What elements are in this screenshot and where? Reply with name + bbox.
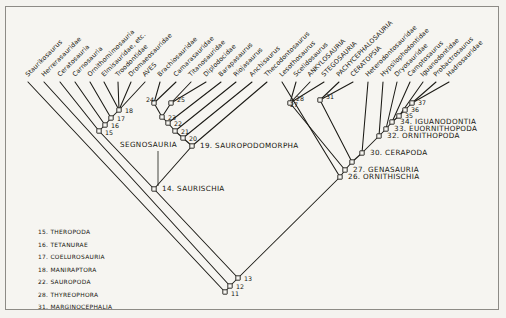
clade-label-saurischia: 14. SAURISCHIA xyxy=(162,184,225,193)
node-marker-22 xyxy=(166,121,170,125)
clade-label-sauropodomorpha: 19. SAUROPODOMORPHA xyxy=(200,141,299,150)
cladogram-figure: StaurikosaurusHerrerasauridaeCeratosauri… xyxy=(0,0,506,318)
segnosauria-label: SEGNOSAURIA xyxy=(120,140,177,149)
clade-label-cerapoda: 30. CERAPODA xyxy=(370,148,427,157)
clade-label-genasauria: 27. GENASAURIA xyxy=(353,165,419,174)
node-marker-16 xyxy=(103,123,107,127)
node-number-15: 15 xyxy=(105,129,113,136)
node-marker-37 xyxy=(410,101,414,105)
node-number-12: 12 xyxy=(236,283,244,290)
node-markers-group xyxy=(97,98,414,294)
node-number-21: 21 xyxy=(181,128,189,135)
node-marker-14 xyxy=(152,187,156,191)
legend-item-5: 22. SAUROPODA xyxy=(38,279,91,285)
node-number-37: 37 xyxy=(418,99,426,106)
legend-item-2: 16. TETANURAE xyxy=(38,242,88,248)
node-number-20: 20 xyxy=(189,135,197,142)
node-marker-31 xyxy=(318,98,322,102)
node-marker-18 xyxy=(117,108,121,112)
legend-item-6: 28. THYREOPHORA xyxy=(38,292,98,298)
legend-group: 15. THEROPODA16. TETANURAE17. COELUROSAU… xyxy=(38,229,112,310)
node-number-18: 18 xyxy=(125,107,133,114)
node-marker-23 xyxy=(160,115,164,119)
node-marker-17 xyxy=(109,116,113,120)
node-marker-19 xyxy=(190,144,194,148)
node-marker-11 xyxy=(223,290,227,294)
named-clade-labels: 19. SAUROPODOMORPHA14. SAURISCHIA26. ORN… xyxy=(162,117,477,193)
node-marker-32 xyxy=(377,134,381,138)
node-marker-25 xyxy=(169,101,173,105)
node-marker-15 xyxy=(97,129,101,133)
tip-labels-group: StaurikosaurusHerrerasauridaeCeratosauri… xyxy=(24,19,485,80)
node-number-27: 27 xyxy=(290,101,298,108)
legend-item-4: 18. MANIRAPTORA xyxy=(38,267,97,273)
legend-item-3: 17. COELUROSAURIA xyxy=(38,254,105,260)
clade-label-iguanodontia: 34. IGUANODONTIA xyxy=(400,117,476,126)
node-marker-29 xyxy=(350,160,354,164)
legend-item-1: 15. THEROPODA xyxy=(38,229,90,235)
node-marker-13 xyxy=(236,276,240,280)
node-marker-26 xyxy=(338,175,342,179)
node-marker-30 xyxy=(360,151,364,155)
node-number-36: 36 xyxy=(411,106,419,113)
node-marker-27 xyxy=(343,168,347,172)
node-number-31: 31 xyxy=(326,93,334,100)
node-number-labels: 11121315161718202122232425282731353637 xyxy=(105,93,426,297)
node-number-17: 17 xyxy=(117,115,125,122)
node-number-11: 11 xyxy=(231,290,239,297)
branch-lines xyxy=(28,82,449,292)
node-number-23: 23 xyxy=(168,114,176,121)
node-marker-12 xyxy=(228,284,232,288)
node-marker-20 xyxy=(181,136,185,140)
node-number-25: 25 xyxy=(177,96,185,103)
node-marker-21 xyxy=(173,129,177,133)
cladogram-canvas: StaurikosaurusHerrerasauridaeCeratosauri… xyxy=(0,0,506,318)
node-number-22: 22 xyxy=(174,120,182,127)
legend-item-7: 31. MARGINOCEPHALIA xyxy=(38,304,112,310)
node-number-13: 13 xyxy=(244,275,252,282)
node-number-16: 16 xyxy=(111,122,119,129)
node-number-24: 24 xyxy=(146,96,154,103)
